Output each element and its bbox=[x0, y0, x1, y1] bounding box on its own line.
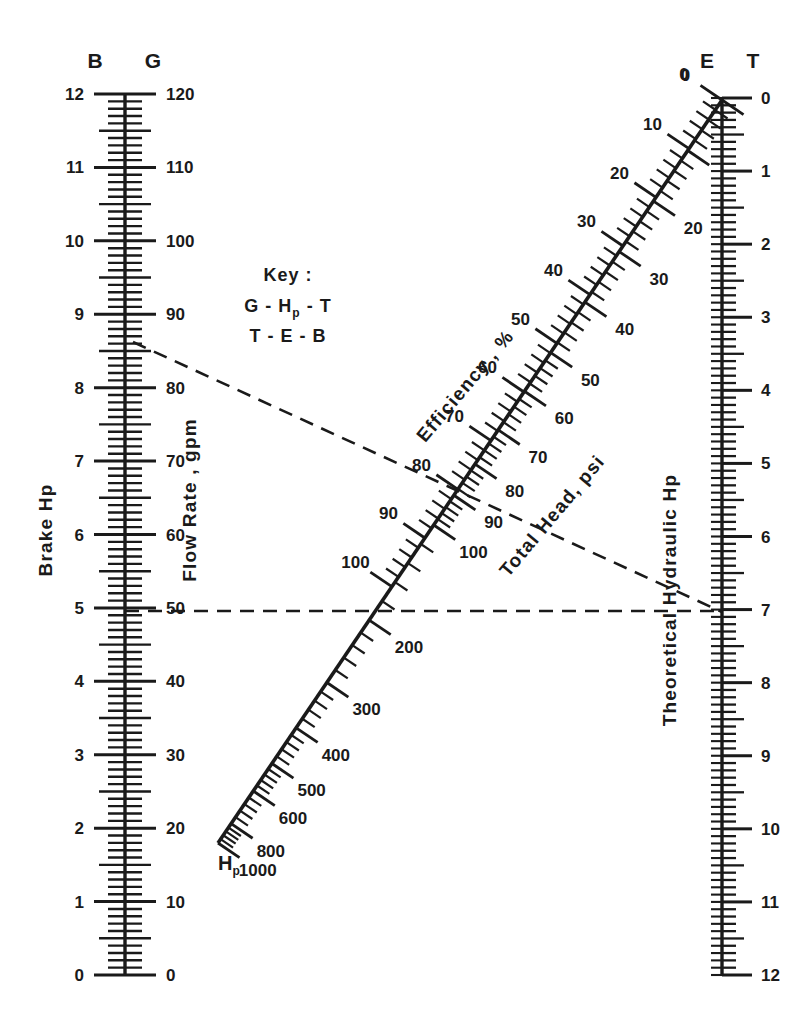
left-axis-tick-label-b: 8 bbox=[75, 379, 84, 398]
diagonal-total-head-minor-tick bbox=[489, 444, 501, 452]
diagonal-total-head-tick bbox=[585, 302, 607, 317]
diagonal-total-head-label: 50 bbox=[581, 371, 600, 390]
left-axis-tick-label-b: 4 bbox=[75, 672, 85, 691]
diagonal-total-head-minor-tick bbox=[277, 756, 289, 764]
diagonal-axis-spine bbox=[218, 100, 722, 843]
diagonal-efficiency-minor-tick bbox=[459, 461, 471, 469]
diagonal-axis-scale: 0102030405060708090100203040506070809010… bbox=[218, 65, 744, 880]
right-axis-tick-label: 5 bbox=[761, 454, 770, 473]
diagonal-total-head-minor-tick bbox=[335, 670, 347, 678]
diagonal-total-head-minor-tick bbox=[302, 719, 314, 727]
diagonal-total-head-minor-tick bbox=[514, 407, 526, 415]
diagonal-total-head-minor-tick bbox=[249, 798, 261, 806]
left-axis-tick-label-g: 50 bbox=[166, 599, 185, 618]
right-axis-scale: 0123456789101112 bbox=[711, 89, 780, 985]
diagonal-efficiency-tick bbox=[535, 329, 557, 344]
diagonal-total-head-minor-tick bbox=[599, 282, 611, 290]
diagonal-efficiency-minor-tick bbox=[505, 393, 517, 401]
left-axis-tick-label-b: 7 bbox=[75, 452, 84, 471]
diagonal-total-head-minor-tick bbox=[268, 769, 280, 777]
diagonal-total-head-minor-tick bbox=[315, 701, 327, 709]
diagonal-axis-title-efficiency: Efficiency , % bbox=[412, 326, 518, 446]
left-axis-tick-label-b: 9 bbox=[75, 305, 84, 324]
diagonal-total-head-label: 60 bbox=[555, 409, 574, 428]
diagonal-total-head-minor-tick bbox=[695, 140, 707, 148]
right-axis-tick-label: 11 bbox=[761, 893, 779, 912]
left-axis-tick-label-g: 110 bbox=[166, 158, 193, 177]
diagonal-total-head-minor-tick bbox=[503, 422, 515, 430]
diagonal-total-head-tick bbox=[434, 525, 456, 540]
left-axis-header-g: G bbox=[145, 49, 161, 72]
diagonal-efficiency-minor-tick bbox=[399, 549, 411, 557]
left-axis-title-brake-hp: Brake Hp bbox=[35, 483, 56, 576]
diagonal-total-head-label: 30 bbox=[649, 270, 668, 289]
left-axis-tick-label-g: 0 bbox=[166, 966, 175, 985]
diagonal-efficiency-minor-tick bbox=[690, 121, 702, 129]
diagonal-total-head-tick bbox=[327, 683, 349, 698]
diagonal-total-head-label: 500 bbox=[297, 781, 325, 800]
left-axis-tick-label-g: 100 bbox=[166, 232, 194, 251]
left-axis-scale: 1212011110101009908807706605504403302201… bbox=[65, 85, 194, 985]
diagonal-total-head-label: 1000 bbox=[239, 861, 277, 880]
diagonal-efficiency-minor-tick bbox=[452, 471, 464, 479]
diagonal-efficiency-minor-tick bbox=[492, 413, 504, 421]
right-axis-tick-label: 10 bbox=[761, 820, 780, 839]
diagonal-total-head-minor-tick bbox=[446, 507, 458, 515]
diagonal-total-head-minor-tick bbox=[282, 749, 294, 757]
diagonal-total-head-minor-tick bbox=[467, 477, 479, 485]
diagonal-total-head-label: 70 bbox=[528, 448, 547, 467]
diagonal-efficiency-minor-tick bbox=[637, 199, 649, 207]
diagonal-total-head-minor-tick bbox=[257, 785, 269, 793]
diagonal-total-head-minor-tick bbox=[240, 811, 252, 819]
diagonal-total-head-minor-tick bbox=[540, 368, 552, 376]
diagonal-total-head-minor-tick bbox=[471, 470, 483, 478]
diagonal-total-head-minor-tick bbox=[484, 450, 496, 458]
left-axis-tick-label-g: 80 bbox=[166, 379, 185, 398]
diagonal-efficiency-minor-tick bbox=[564, 306, 576, 314]
diagonal-total-head-minor-tick bbox=[667, 181, 679, 189]
diagonal-total-head-minor-tick bbox=[361, 633, 373, 641]
diagonal-total-head-label: 90 bbox=[484, 513, 503, 532]
diagonal-total-head-minor-tick bbox=[408, 563, 420, 571]
diagonal-efficiency-minor-tick bbox=[551, 325, 563, 333]
diagonal-efficiency-minor-tick bbox=[386, 569, 398, 577]
diagonal-total-head-label: 100 bbox=[459, 543, 487, 562]
diagonal-efficiency-minor-tick bbox=[531, 354, 543, 362]
left-axis-tick-label-g: 90 bbox=[166, 305, 185, 324]
right-axis-tick-label: 3 bbox=[761, 308, 770, 327]
diagonal-total-head-minor-tick bbox=[564, 332, 576, 340]
diagonal-total-head-minor-tick bbox=[605, 272, 617, 280]
diagonal-total-head-tick bbox=[653, 201, 675, 216]
diagonal-efficiency-minor-tick bbox=[558, 315, 570, 323]
diagonal-total-head-minor-tick bbox=[494, 437, 506, 445]
diagonal-efficiency-tick bbox=[370, 572, 392, 587]
diagonal-axis-header-e: E bbox=[700, 49, 714, 72]
diagonal-efficiency-tick bbox=[601, 231, 623, 246]
right-axis-tick-label: 1 bbox=[761, 162, 770, 181]
diagonal-efficiency-label: 20 bbox=[610, 164, 629, 183]
left-axis-tick-label-b: 6 bbox=[75, 526, 84, 545]
diagonal-efficiency-minor-tick bbox=[584, 277, 596, 285]
diagonal-total-head-label: 40 bbox=[615, 320, 634, 339]
left-axis-tick-label-b: 12 bbox=[65, 85, 84, 104]
left-axis-tick-label-b: 2 bbox=[75, 819, 84, 838]
diagonal-total-head-minor-tick bbox=[626, 241, 638, 249]
diagonal-efficiency-minor-tick bbox=[393, 559, 405, 567]
diagonal-efficiency-tick bbox=[403, 523, 425, 538]
diagonal-total-head-minor-tick bbox=[244, 804, 256, 812]
diagonal-total-head-minor-tick bbox=[344, 658, 356, 666]
right-axis-header-t: T bbox=[747, 49, 760, 72]
diagonal-total-head-minor-tick bbox=[462, 483, 474, 491]
diagonal-total-head-minor-tick bbox=[421, 544, 433, 552]
diagonal-efficiency-minor-tick bbox=[406, 539, 418, 547]
diagonal-total-head-minor-tick bbox=[261, 780, 273, 788]
diagonal-efficiency-minor-tick bbox=[419, 520, 431, 528]
left-axis-tick-label-b: 5 bbox=[75, 599, 84, 618]
key-block: Key : G - Hp - T T - E - B bbox=[244, 265, 331, 346]
diagonal-total-head-minor-tick bbox=[640, 221, 652, 229]
left-axis-header-b: B bbox=[87, 49, 102, 72]
diagonal-total-head-label: 600 bbox=[279, 809, 307, 828]
diagonal-total-head-minor-tick bbox=[681, 161, 693, 169]
construction-line-t-e-b bbox=[133, 342, 722, 612]
right-axis-tick-label: 9 bbox=[761, 747, 770, 766]
